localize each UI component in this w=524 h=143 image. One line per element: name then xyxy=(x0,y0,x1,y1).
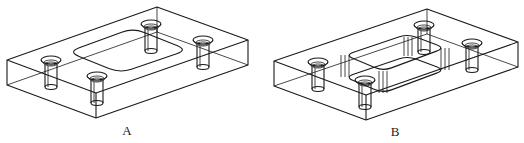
figure-label-a: A xyxy=(122,123,131,139)
countersunk-hole xyxy=(87,72,107,106)
countersunk-hole xyxy=(41,56,61,90)
plate-top-face xyxy=(7,7,248,93)
pocket-outline xyxy=(74,30,183,71)
figure-b xyxy=(274,9,518,120)
figure-a xyxy=(7,7,248,118)
figure-label-b: B xyxy=(391,124,400,140)
plate-top-face xyxy=(274,9,518,95)
diagram-canvas xyxy=(0,0,524,143)
boss-top-outline xyxy=(349,36,441,70)
